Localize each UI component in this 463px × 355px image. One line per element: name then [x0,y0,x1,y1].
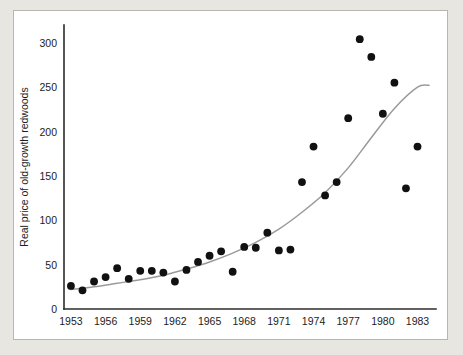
data-point [379,110,387,118]
data-point [321,192,329,200]
x-tick-label: 1959 [129,315,153,327]
data-point [414,143,422,151]
data-point [136,267,144,275]
exponential-trend-line [71,85,429,290]
y-tick-label: 50 [45,259,57,271]
data-point [298,178,306,186]
x-tick-label: 1968 [233,315,257,327]
data-point [125,275,133,283]
y-tick-label: 300 [39,37,57,49]
y-tick-label: 0 [51,303,57,315]
x-tick-label: 1980 [371,315,395,327]
data-point [183,266,191,274]
x-tick-label: 1974 [302,315,326,327]
x-tick-labels: 1953195619591962196519681971197419771980… [59,315,429,327]
data-point [229,268,237,276]
data-point [252,244,260,252]
data-point [367,53,375,61]
x-tick-label: 1983 [406,315,430,327]
data-point [402,184,410,192]
data-point [148,267,156,275]
data-point [90,278,98,286]
data-point [206,252,214,260]
x-tick-label: 1953 [59,315,83,327]
data-point [275,247,283,255]
y-tick-label: 250 [39,81,57,93]
data-point [391,79,399,87]
data-point [310,143,318,151]
x-tick-label: 1965 [198,315,222,327]
x-tick-label: 1977 [337,315,361,327]
data-point [171,278,179,286]
figure-root: 050100150200250300 195319561959196219651… [0,0,463,355]
y-tick-label: 200 [39,126,57,138]
data-point [333,178,341,186]
x-tick-label: 1956 [94,315,118,327]
data-point [194,258,202,266]
data-point [287,246,295,254]
y-tick-label: 100 [39,214,57,226]
data-point [263,229,271,237]
data-points-group [67,35,421,294]
data-point [344,114,352,122]
scatter-plot-svg: 050100150200250300 195319561959196219651… [14,11,447,339]
y-axis-title: Real price of old-growth redwoods [18,87,30,246]
data-point [113,264,121,272]
data-point [356,35,364,43]
y-tick-label: 150 [39,170,57,182]
chart-panel: 050100150200250300 195319561959196219651… [13,10,448,340]
data-point [217,247,225,255]
data-point [240,243,248,251]
x-tick-label: 1971 [267,315,291,327]
data-point [79,286,87,294]
data-point [67,282,75,290]
y-tick-labels: 050100150200250300 [39,37,57,315]
data-point [159,269,167,277]
data-point [102,273,110,281]
x-tick-label: 1962 [163,315,187,327]
